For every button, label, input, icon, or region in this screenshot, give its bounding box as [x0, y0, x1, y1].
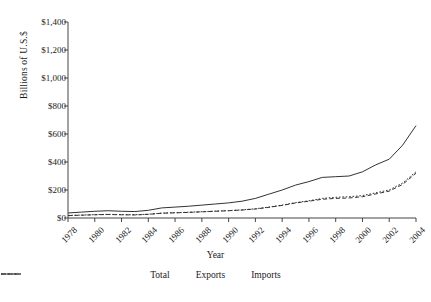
legend-item-exports: Exports: [196, 270, 226, 280]
chart-container: Billions of U.S.$ Year $0$200$400$600$80…: [0, 0, 431, 302]
series-line-total: [68, 126, 416, 213]
series-line-exports: [68, 172, 416, 216]
legend-item-imports: Imports: [251, 270, 281, 280]
chart-legend: TotalExportsImports: [0, 270, 431, 280]
legend-item-total: Total: [150, 270, 169, 280]
legend-label: Imports: [251, 270, 281, 280]
legend-label: Exports: [196, 270, 226, 280]
series-line-imports: [68, 173, 416, 215]
plot-area: [0, 0, 431, 302]
legend-label: Total: [150, 270, 169, 280]
legend-key-imports: [0, 270, 22, 278]
